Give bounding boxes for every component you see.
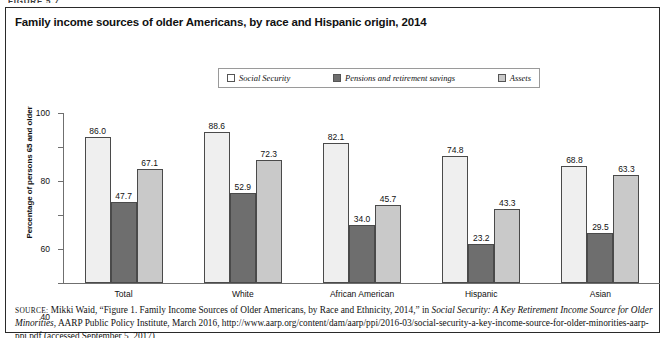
bar-asian-ast[interactable]: 63.3 (613, 175, 639, 283)
y-tick-label-60: 60 (41, 244, 50, 254)
y-tick-label-100: 100 (36, 108, 50, 118)
y-tick-label-80: 80 (41, 176, 50, 186)
bar-white-ss[interactable]: 88.6 (204, 132, 230, 283)
bar-hispanic-pen[interactable]: 23.2 (468, 244, 494, 283)
x-axis-label-white: White (183, 289, 302, 299)
bar-hispanic-ss[interactable]: 74.8 (442, 156, 468, 283)
source-note: SOURCE: Mikki Waid, “Figure 1. Family In… (15, 304, 655, 338)
bar-african-american-ast[interactable]: 45.7 (375, 205, 401, 283)
bar-value-label: 82.1 (328, 132, 345, 142)
bar-value-label: 63.3 (618, 164, 635, 174)
bar-african-american-pen[interactable]: 34.0 (349, 225, 375, 283)
y-axis-label: Percentage of persons 65 and older (25, 88, 34, 258)
bar-african-american-ss[interactable]: 82.1 (323, 143, 349, 283)
x-axis-label-hispanic: Hispanic (422, 289, 541, 299)
source-keyword: SOURCE: (15, 306, 48, 315)
bar-total-ast[interactable]: 67.1 (137, 169, 163, 283)
bar-groups: 86.047.767.1Total88.652.972.3White82.134… (64, 113, 660, 283)
y-tick-20: 20 (58, 249, 63, 250)
bar-value-label: 68.8 (566, 155, 583, 165)
y-tick-0: 0 (58, 283, 63, 284)
bar-group-total: 86.047.767.1Total (64, 113, 183, 283)
bar-value-label: 88.6 (209, 121, 226, 131)
bar-white-pen[interactable]: 52.9 (230, 193, 256, 283)
bar-asian-ss[interactable]: 68.8 (561, 166, 587, 283)
bar-total-ss[interactable]: 86.0 (85, 137, 111, 283)
bar-white-ast[interactable]: 72.3 (256, 160, 282, 283)
bar-value-label: 47.7 (115, 191, 132, 201)
bar-total-pen[interactable]: 47.7 (111, 202, 137, 283)
y-tick-60: 60 (58, 181, 63, 182)
y-tick-100: 100 (58, 113, 63, 114)
bar-value-label: 23.2 (473, 233, 490, 243)
bar-value-label: 72.3 (261, 149, 278, 159)
bar-value-label: 43.3 (499, 198, 516, 208)
bar-group-african-american: 82.134.045.7African American (302, 113, 421, 283)
figure-frame: Family income sources of older Americans… (5, 7, 660, 333)
x-axis-label-asian: Asian (541, 289, 660, 299)
plot-area: 020406080100 86.047.767.1Total88.652.972… (63, 113, 660, 283)
bar-hispanic-ast[interactable]: 43.3 (494, 209, 520, 283)
bar-group-asian: 68.829.563.3Asian (541, 113, 660, 283)
y-tick-40: 40 (58, 215, 63, 216)
bar-group-hispanic: 74.823.243.3Hispanic (422, 113, 541, 283)
bar-value-label: 67.1 (141, 158, 158, 168)
bar-value-label: 29.5 (592, 222, 609, 232)
x-axis-line (63, 283, 660, 284)
bar-value-label: 86.0 (89, 126, 106, 136)
x-axis-label-total: Total (64, 289, 183, 299)
figure-number: FIGURE 5.7 (8, 0, 60, 3)
bar-value-label: 74.8 (447, 145, 464, 155)
bar-value-label: 34.0 (354, 214, 371, 224)
bar-chart: Percentage of persons 65 and older 02040… (6, 8, 666, 338)
x-axis-label-african-american: African American (302, 289, 421, 299)
source-text-1: Mikki Waid, “Figure 1. Family Income Sou… (48, 305, 431, 315)
bar-group-white: 88.652.972.3White (183, 113, 302, 283)
source-text-2: , AARP Public Policy Institute, March 20… (15, 318, 649, 338)
bar-asian-pen[interactable]: 29.5 (587, 233, 613, 283)
y-tick-80: 80 (58, 147, 63, 148)
bar-value-label: 52.9 (235, 182, 252, 192)
bar-value-label: 45.7 (380, 194, 397, 204)
